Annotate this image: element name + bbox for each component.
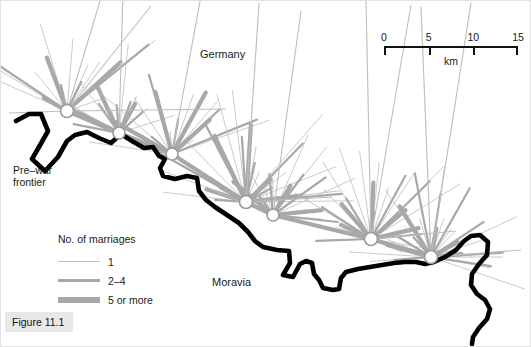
settlement-node[interactable]: [365, 233, 378, 246]
scale-tick-mark: [516, 46, 518, 55]
legend-item-label: 1: [108, 256, 114, 268]
scale-tick-label: 5: [426, 31, 432, 43]
settlement-node[interactable]: [166, 148, 178, 160]
scale-tick-label: 0: [381, 31, 387, 43]
marriage-link-long: [67, 6, 151, 111]
marriage-link: [316, 239, 371, 241]
scale-tick-mark: [384, 46, 386, 55]
scale-unit-label: km: [384, 55, 518, 67]
scale-bar-baseline: [384, 46, 518, 48]
legend-item-label: 2–4: [108, 275, 126, 287]
region-label-germany: Germany: [200, 48, 245, 60]
figure-container: Germany Moravia Pre–war frontier 051015 …: [0, 0, 531, 347]
legend: No. of marriages 1 2–4 5 or more: [58, 233, 153, 309]
legend-swatch-thick: [58, 297, 100, 303]
legend-swatch-thin: [58, 261, 100, 262]
legend-item: 1: [58, 252, 153, 271]
figure-caption: Figure 11.1: [5, 312, 73, 332]
scale-tick-mark: [473, 46, 475, 55]
settlement-node[interactable]: [240, 196, 253, 209]
settlement-node[interactable]: [425, 251, 438, 264]
scale-bar: 051015 km: [384, 31, 518, 67]
scale-tick-mark: [429, 46, 431, 55]
legend-item-label: 5 or more: [108, 294, 153, 306]
legend-swatch-medium: [58, 279, 100, 282]
settlement-node[interactable]: [113, 127, 125, 139]
scale-tick-label: 15: [512, 31, 524, 43]
region-label-moravia: Moravia: [212, 276, 251, 288]
frontier-label: Pre–war frontier: [13, 164, 52, 188]
marriage-link: [431, 257, 525, 289]
scale-bar-line: [384, 46, 518, 55]
legend-item: 2–4: [58, 271, 153, 290]
settlement-node[interactable]: [61, 105, 74, 118]
scale-tick-label: 10: [467, 31, 479, 43]
legend-title: No. of marriages: [58, 233, 153, 245]
legend-item: 5 or more: [58, 290, 153, 309]
settlement-node[interactable]: [267, 209, 279, 221]
scale-tick-numbers: 051015: [384, 31, 518, 45]
